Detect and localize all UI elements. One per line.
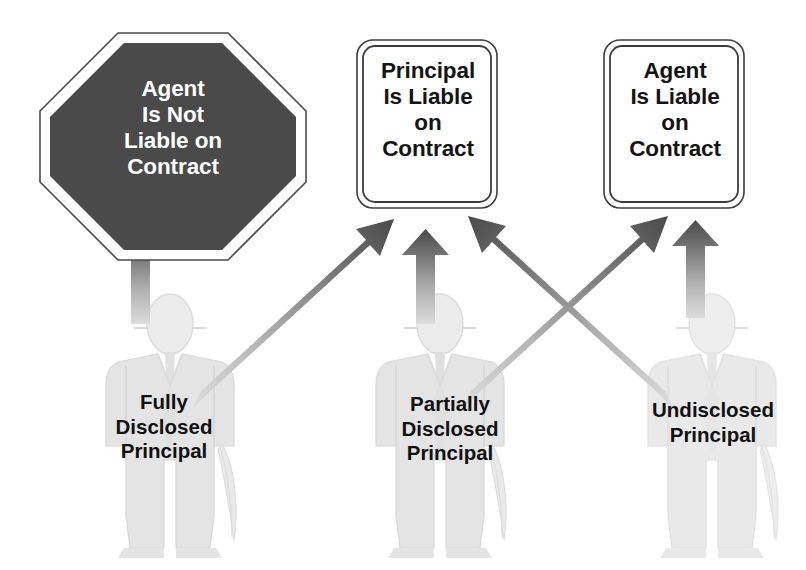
figure-fully-disclosed-principal — [106, 294, 236, 558]
figure-undisclosed-principal — [648, 294, 778, 558]
outcome-agent-not-liable[interactable] — [40, 33, 306, 260]
outcome-principal-liable[interactable] — [357, 40, 497, 208]
diagram-graphics — [0, 0, 806, 570]
diagram-canvas: Agent Is Not Liable on Contract Principa… — [0, 0, 806, 570]
figure-partially-disclosed-principal — [376, 294, 506, 558]
outcome-agent-liable[interactable] — [604, 40, 744, 208]
